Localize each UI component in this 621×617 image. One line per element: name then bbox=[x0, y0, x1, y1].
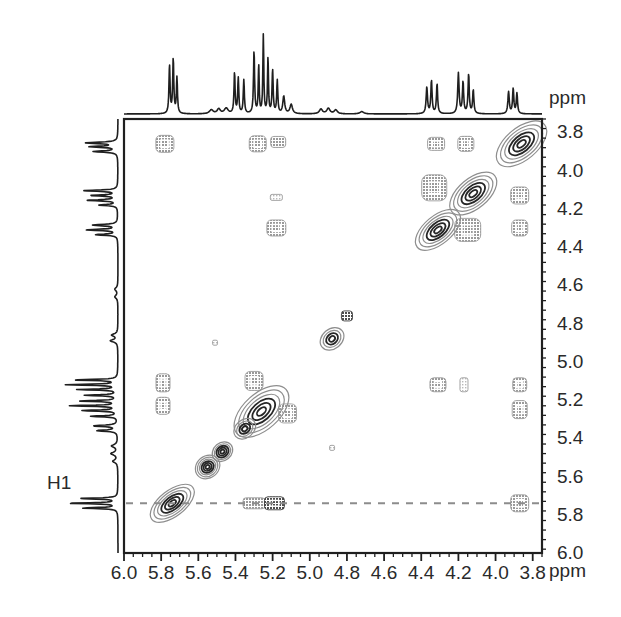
y-tick-label: 3.8 bbox=[557, 121, 583, 143]
nmr-spectrum-figure: ppm ppm H1 6.05.85.65.45.25.04.84.64.44.… bbox=[0, 0, 621, 617]
x-tick-label: 6.0 bbox=[111, 562, 137, 584]
x-tick-label: 5.0 bbox=[297, 562, 323, 584]
y-tick-label: 5.8 bbox=[557, 504, 583, 526]
top-axis-unit-label: ppm bbox=[549, 87, 586, 109]
x-tick-label: 5.8 bbox=[148, 562, 174, 584]
y-tick-label: 4.0 bbox=[557, 160, 583, 182]
x-tick-label: 5.2 bbox=[259, 562, 285, 584]
x-tick-label: 4.8 bbox=[334, 562, 360, 584]
y-tick-label: 4.2 bbox=[557, 198, 583, 220]
x-tick-label: 4.0 bbox=[482, 562, 508, 584]
x-tick-label: 3.8 bbox=[519, 562, 545, 584]
label-layer: ppm ppm H1 6.05.85.65.45.25.04.84.64.44.… bbox=[0, 0, 621, 617]
y-tick-label: 4.6 bbox=[557, 274, 583, 296]
x-tick-label: 5.4 bbox=[222, 562, 248, 584]
y-tick-label: 6.0 bbox=[557, 542, 583, 564]
x-tick-label: 4.6 bbox=[371, 562, 397, 584]
y-tick-label: 5.0 bbox=[557, 351, 583, 373]
y-tick-label: 4.8 bbox=[557, 313, 583, 335]
y-tick-label: 5.4 bbox=[557, 427, 583, 449]
h1-peak-label: H1 bbox=[47, 472, 71, 494]
x-tick-label: 5.6 bbox=[185, 562, 211, 584]
x-tick-label: 4.4 bbox=[408, 562, 434, 584]
y-tick-label: 4.4 bbox=[557, 236, 583, 258]
x-tick-label: 4.2 bbox=[445, 562, 471, 584]
y-tick-label: 5.6 bbox=[557, 466, 583, 488]
y-tick-label: 5.2 bbox=[557, 389, 583, 411]
